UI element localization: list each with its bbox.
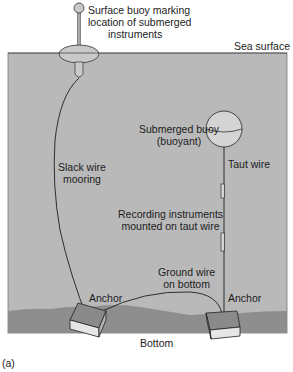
label-line: Surface buoy marking xyxy=(88,4,191,16)
label-line: mooring xyxy=(58,173,106,185)
label-taut-wire: Taut wire xyxy=(228,158,270,170)
label-line: on bottom xyxy=(158,278,215,290)
label-anchor-right: Anchor xyxy=(228,292,261,304)
label-line: Submerged buoy xyxy=(139,123,219,135)
water-body xyxy=(8,53,287,333)
label-anchor-left: Anchor xyxy=(89,292,122,304)
recording-instrument-2 xyxy=(221,233,225,251)
label-line: location of submerged xyxy=(88,16,191,28)
label-ground-wire: Ground wire on bottom xyxy=(158,266,215,290)
label-recording-instruments: Recording instruments mounted on taut wi… xyxy=(118,208,223,232)
label-surface-buoy: Surface buoy marking location of submerg… xyxy=(88,4,191,28)
label-bottom: Bottom xyxy=(140,337,173,349)
label-line: instruments xyxy=(108,28,162,40)
anchor-right xyxy=(206,311,240,339)
label-line: Ground wire xyxy=(158,266,215,278)
label-surface-buoy-3: instruments xyxy=(108,28,162,40)
label-slack-wire: Slack wire mooring xyxy=(58,161,106,185)
mooring-diagram xyxy=(0,0,293,372)
label-line: mounted on taut wire xyxy=(118,220,223,232)
label-line: (buoyant) xyxy=(139,135,219,147)
label-line: Recording instruments xyxy=(118,208,223,220)
label-line: Slack wire xyxy=(58,161,106,173)
recording-instrument-1 xyxy=(221,184,225,198)
label-submerged-buoy: Submerged buoy (buoyant) xyxy=(139,123,219,147)
label-sea-surface: Sea surface xyxy=(234,40,290,52)
panel-label: (a) xyxy=(2,357,15,369)
